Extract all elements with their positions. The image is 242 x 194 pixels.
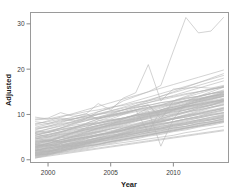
x-tick-label: 2010 [166,169,181,176]
y-tick-label: 0 [21,156,25,163]
y-tick-label: 20 [17,66,25,73]
x-tick-label: 2000 [41,169,56,176]
spaghetti-plot-chart: 0102030200020052010 Adjusted Year [0,0,242,194]
series-line [36,96,224,150]
chart-canvas: 0102030200020052010 Adjusted Year [0,0,242,194]
series-layer [36,17,224,157]
y-tick-label: 10 [17,111,25,118]
y-axis-title: Adjusted [4,74,13,107]
y-tick-label: 30 [17,20,25,27]
x-axis-title: Year [121,180,137,189]
x-tick-label: 2005 [103,169,118,176]
